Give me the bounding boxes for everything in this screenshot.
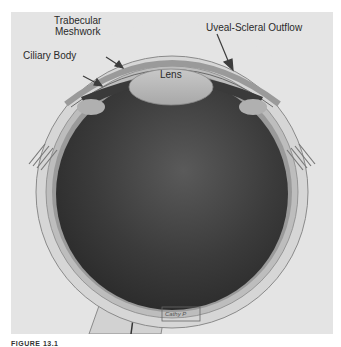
meshwork-label-line2: Meshwork bbox=[54, 26, 101, 37]
uveal-scleral-outflow-label: Uveal-Scleral Outflow bbox=[206, 22, 302, 33]
lens-label: Lens bbox=[160, 69, 182, 80]
trabecular-label-line1: Trabecular bbox=[54, 15, 101, 26]
ciliary-body-label: Ciliary Body bbox=[23, 50, 76, 61]
eye-diagram-figure: Trabecular Meshwork Ciliary Body Uveal-S… bbox=[11, 12, 333, 334]
figure-caption: FIGURE 13.1 bbox=[11, 340, 59, 347]
artist-signature: Cathy P bbox=[165, 309, 186, 320]
trabecular-meshwork-label: Trabecular Meshwork bbox=[54, 15, 101, 37]
